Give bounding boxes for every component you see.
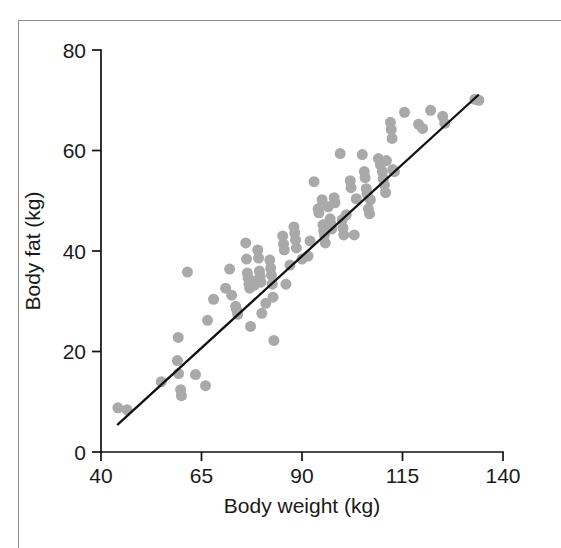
data-point — [241, 254, 252, 265]
data-point — [309, 176, 320, 187]
data-point — [357, 149, 368, 160]
data-point — [323, 201, 334, 212]
x-tick-label-1: 65 — [190, 464, 213, 487]
fit-line-layer — [118, 95, 478, 424]
data-point — [112, 402, 123, 413]
x-tick-label-2: 90 — [290, 464, 313, 487]
data-point — [360, 172, 371, 183]
data-point — [253, 253, 264, 264]
x-tick-labels: 40 65 90 115 140 — [89, 464, 520, 487]
data-point — [256, 308, 267, 319]
y-axis-title: Body fat (kg) — [21, 191, 44, 310]
data-point — [349, 229, 360, 240]
y-tick-label-1: 20 — [63, 340, 86, 363]
data-point — [220, 283, 231, 294]
data-point — [268, 335, 279, 346]
data-point — [182, 267, 193, 278]
data-point — [260, 298, 271, 309]
data-point — [224, 264, 235, 275]
data-point — [364, 208, 375, 219]
data-point — [172, 355, 183, 366]
data-point — [338, 229, 349, 240]
y-tick-label-4: 80 — [63, 39, 86, 62]
data-point — [346, 182, 357, 193]
axes-group — [101, 50, 503, 452]
data-point — [381, 155, 392, 166]
x-axis-title: Body weight (kg) — [224, 494, 380, 517]
y-axis-ticks — [92, 50, 101, 452]
data-point — [291, 242, 302, 253]
data-point — [280, 279, 291, 290]
data-point — [279, 244, 290, 255]
y-tick-label-0: 0 — [74, 441, 86, 464]
data-point — [303, 251, 314, 262]
data-point — [240, 237, 251, 248]
data-point — [256, 277, 267, 288]
x-tick-label-0: 40 — [89, 464, 112, 487]
data-point — [202, 315, 213, 326]
data-point — [208, 294, 219, 305]
y-tick-label-2: 40 — [63, 240, 86, 263]
data-point — [335, 148, 346, 159]
y-tick-label-3: 60 — [63, 139, 86, 162]
data-point — [190, 369, 201, 380]
x-tick-label-4: 140 — [485, 464, 520, 487]
data-point — [245, 321, 256, 332]
data-point — [417, 123, 428, 134]
data-point — [425, 105, 436, 116]
x-tick-label-3: 115 — [386, 464, 419, 487]
regression-fit-line — [118, 95, 478, 424]
y-tick-labels: 0 20 40 60 80 — [63, 39, 86, 465]
data-point — [200, 380, 211, 391]
x-axis-ticks — [101, 452, 503, 461]
data-point — [399, 107, 410, 118]
data-point — [387, 133, 398, 144]
data-point — [380, 187, 391, 198]
data-point — [313, 207, 324, 218]
data-point — [473, 95, 484, 106]
data-point — [176, 390, 187, 401]
data-point — [173, 332, 184, 343]
